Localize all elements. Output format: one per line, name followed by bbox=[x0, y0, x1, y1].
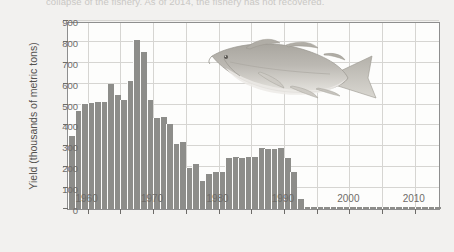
y-tick-label: 0 bbox=[36, 205, 78, 216]
y-tick-label: 100 bbox=[36, 184, 78, 195]
x-tick-label: 1990 bbox=[272, 193, 294, 204]
y-tick-label: 800 bbox=[36, 37, 78, 48]
gridline-horizontal bbox=[68, 20, 439, 21]
x-tick-label: 2010 bbox=[403, 193, 425, 204]
plot-area bbox=[67, 22, 440, 210]
x-tick-label: 1980 bbox=[206, 193, 228, 204]
x-tick-mark bbox=[186, 209, 187, 214]
y-tick-label: 900 bbox=[36, 17, 78, 28]
y-axis-label-container: Yield (thousands of metric tons) bbox=[26, 22, 40, 210]
x-tick-label: 1960 bbox=[76, 193, 98, 204]
bar bbox=[434, 207, 441, 209]
cod-yield-bar-chart: Yield (thousands of metric tons) 0100200… bbox=[0, 0, 454, 252]
x-tick-mark bbox=[251, 209, 252, 214]
y-tick-label: 200 bbox=[36, 163, 78, 174]
y-tick-label: 400 bbox=[36, 121, 78, 132]
x-tick-mark bbox=[317, 209, 318, 214]
x-tick-mark bbox=[219, 209, 220, 214]
x-tick-mark bbox=[349, 209, 350, 214]
y-tick-label: 500 bbox=[36, 100, 78, 111]
x-tick-mark bbox=[88, 209, 89, 214]
y-tick-label: 700 bbox=[36, 58, 78, 69]
x-tick-label: 2000 bbox=[337, 193, 359, 204]
x-tick-mark bbox=[382, 209, 383, 214]
y-tick-label: 300 bbox=[36, 142, 78, 153]
x-tick-mark bbox=[415, 209, 416, 214]
x-tick-mark bbox=[284, 209, 285, 214]
bar-series bbox=[68, 23, 439, 209]
x-tick-mark bbox=[153, 209, 154, 214]
x-tick-label: 1970 bbox=[141, 193, 163, 204]
y-tick-label: 600 bbox=[36, 79, 78, 90]
x-tick-mark bbox=[120, 209, 121, 214]
